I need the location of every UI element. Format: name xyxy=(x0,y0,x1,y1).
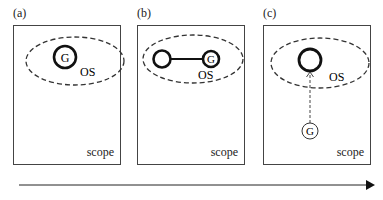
arrow-right-icon xyxy=(366,180,375,190)
timeline-arrow xyxy=(0,0,383,200)
